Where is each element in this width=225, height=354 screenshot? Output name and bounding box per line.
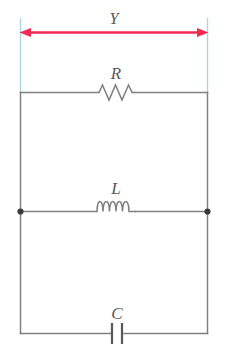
junction-dot-right xyxy=(204,208,210,214)
capacitor-label: C xyxy=(111,304,123,323)
circuit-schematic-svg: Y R L xyxy=(0,0,225,354)
inductor-coil xyxy=(97,201,136,211)
inductor-label: L xyxy=(110,179,120,198)
circuit-diagram-canvas: Y R L xyxy=(0,0,225,354)
circuit-wires xyxy=(21,93,208,334)
dimension-arrowhead-right xyxy=(197,28,209,37)
inductor-symbol: L xyxy=(97,179,136,212)
resistor-zigzag xyxy=(99,85,134,100)
capacitor-symbol: C xyxy=(111,304,123,344)
junction-dot-left xyxy=(17,208,23,214)
dimension-arrowhead-left xyxy=(20,28,32,37)
resistor-label: R xyxy=(110,64,122,83)
dimension-label-y: Y xyxy=(110,10,121,27)
resistor-symbol: R xyxy=(99,64,134,100)
